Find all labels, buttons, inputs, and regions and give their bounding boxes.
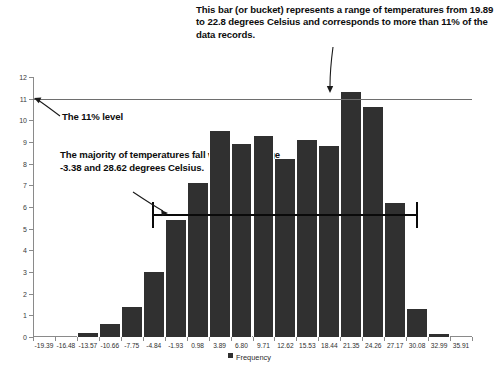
x-tick bbox=[33, 337, 34, 341]
x-tick bbox=[55, 337, 56, 341]
x-tick bbox=[318, 337, 319, 341]
annotation-bucket-callout: This bar (or bucket) represents a range … bbox=[196, 4, 496, 41]
x-tick-label: -16.48 bbox=[57, 342, 76, 349]
range-cap-left bbox=[152, 202, 154, 228]
histogram-figure: This bar (or bucket) represents a range … bbox=[0, 0, 499, 378]
y-tick-label: 9 bbox=[23, 139, 27, 146]
x-tick-label: 24.26 bbox=[365, 342, 382, 349]
histogram-bar bbox=[209, 131, 231, 337]
legend-label-frequency: Frequency bbox=[236, 353, 271, 362]
x-tick bbox=[384, 337, 385, 341]
x-tick bbox=[187, 337, 188, 341]
y-tick-label: 12 bbox=[19, 74, 27, 81]
x-tick-label: -7.75 bbox=[124, 342, 139, 349]
x-tick-label: -4.84 bbox=[146, 342, 161, 349]
x-tick bbox=[274, 337, 275, 341]
histogram-bar bbox=[99, 324, 121, 337]
x-tick bbox=[296, 337, 297, 341]
x-tick-label: 3.89 bbox=[213, 342, 226, 349]
x-tick-label: 30.08 bbox=[409, 342, 426, 349]
y-tick-label: 3 bbox=[23, 269, 27, 276]
x-tick-label: 9.71 bbox=[257, 342, 270, 349]
histogram-bar bbox=[406, 309, 428, 337]
x-tick bbox=[99, 337, 100, 341]
x-tick bbox=[428, 337, 429, 341]
x-tick-label: -19.39 bbox=[35, 342, 54, 349]
x-tick bbox=[143, 337, 144, 341]
x-tick bbox=[340, 337, 341, 341]
x-tick-label: 21.35 bbox=[343, 342, 360, 349]
plot-area: 0123456789101112 -19.39-16.48-13.57-10.6… bbox=[33, 77, 472, 337]
histogram-bar bbox=[77, 333, 99, 337]
x-tick bbox=[472, 337, 473, 341]
histogram-bar bbox=[318, 146, 340, 337]
histogram-bar bbox=[165, 220, 187, 337]
x-tick-label: 35.91 bbox=[453, 342, 470, 349]
histogram-bar bbox=[143, 272, 165, 337]
histogram-bar bbox=[362, 107, 384, 337]
x-tick bbox=[450, 337, 451, 341]
x-tick bbox=[165, 337, 166, 341]
y-tick-label: 6 bbox=[23, 204, 27, 211]
legend-swatch-frequency bbox=[228, 353, 233, 358]
x-tick-label: 12.62 bbox=[277, 342, 294, 349]
histogram-bar bbox=[384, 203, 406, 337]
x-tick bbox=[406, 337, 407, 341]
histogram-bar bbox=[121, 307, 143, 337]
y-tick-label: 11 bbox=[20, 95, 27, 102]
x-tick-label: -13.57 bbox=[79, 342, 98, 349]
histogram-bar bbox=[253, 136, 275, 338]
x-tick-label: 0.98 bbox=[191, 342, 204, 349]
y-tick-label: 7 bbox=[23, 182, 27, 189]
x-tick-label: -1.93 bbox=[168, 342, 183, 349]
bar-group bbox=[33, 77, 472, 337]
y-tick-label: 2 bbox=[23, 290, 27, 297]
x-tick-label: 27.17 bbox=[387, 342, 404, 349]
x-tick bbox=[77, 337, 78, 341]
x-tick bbox=[231, 337, 232, 341]
histogram-bar bbox=[231, 144, 253, 337]
x-tick-label: 18.44 bbox=[321, 342, 338, 349]
eleven-percent-line bbox=[33, 99, 472, 100]
x-tick bbox=[121, 337, 122, 341]
x-tick-label: 6.80 bbox=[235, 342, 248, 349]
y-tick-label: 10 bbox=[19, 117, 27, 124]
range-cap-right bbox=[416, 202, 418, 228]
x-tick bbox=[209, 337, 210, 341]
histogram-bar bbox=[296, 140, 318, 337]
histogram-bar bbox=[274, 159, 296, 337]
x-tick-label: 32.99 bbox=[431, 342, 448, 349]
histogram-bar bbox=[428, 334, 450, 337]
histogram-bar bbox=[187, 183, 209, 337]
y-tick-label: 5 bbox=[23, 225, 27, 232]
y-tick-label: 0 bbox=[23, 334, 27, 341]
x-tick-label: 15.53 bbox=[299, 342, 316, 349]
y-tick-label: 4 bbox=[23, 247, 27, 254]
majority-range-line bbox=[152, 214, 418, 216]
x-tick-label: -10.66 bbox=[100, 342, 119, 349]
legend: Frequency bbox=[0, 352, 499, 362]
x-tick bbox=[253, 337, 254, 341]
y-tick-label: 1 bbox=[23, 312, 27, 319]
y-tick-label: 8 bbox=[23, 160, 27, 167]
x-tick bbox=[362, 337, 363, 341]
